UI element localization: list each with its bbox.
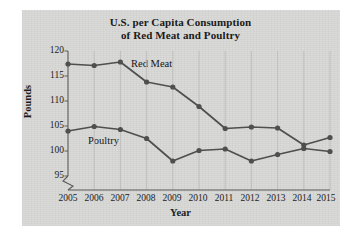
chart-figure: U.S. per Capita Consumption of Red Meat … bbox=[0, 0, 361, 237]
vertical-gridlines bbox=[68, 51, 330, 190]
chart-plot-area bbox=[0, 0, 361, 237]
y-axis-line bbox=[63, 51, 73, 190]
